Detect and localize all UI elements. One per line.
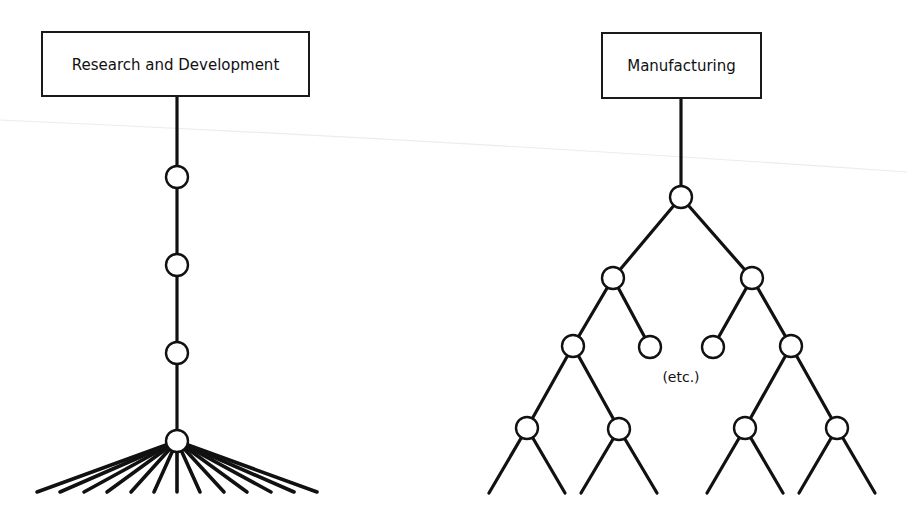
tree-node (702, 336, 724, 358)
tree-edge (791, 346, 837, 428)
tree-node (602, 267, 624, 289)
tree-edge (527, 346, 573, 428)
manufacturing-box-label: Manufacturing (627, 57, 736, 75)
tree-node (562, 335, 584, 357)
scan-streak (0, 120, 907, 172)
tree-node (780, 335, 802, 357)
chain-node (166, 342, 188, 364)
etc-annotation: (etc.) (662, 369, 699, 385)
tree-node (639, 336, 661, 358)
tree-edge (745, 346, 791, 428)
manufacturing-box: Manufacturing (602, 33, 761, 98)
manufacturing-structure: Manufacturing (etc.) (489, 33, 875, 493)
organization-structure-diagram: Research and Development Manufacturing (… (0, 0, 907, 520)
research-and-development-box: Research and Development (42, 32, 309, 96)
research-development-structure: Research and Development (37, 32, 317, 492)
tree-edge (681, 197, 752, 278)
chain-node (166, 430, 188, 452)
tree-edge (573, 346, 619, 429)
manufacturing-tree-edges (489, 98, 875, 493)
tree-node (516, 417, 538, 439)
chain-node (166, 166, 188, 188)
tree-node (826, 417, 848, 439)
manufacturing-tree-nodes (516, 186, 848, 440)
tree-node (734, 417, 756, 439)
research-box-label: Research and Development (72, 56, 280, 74)
tree-node (670, 186, 692, 208)
chain-node (166, 254, 188, 276)
tree-node (741, 267, 763, 289)
fan-line (84, 441, 177, 492)
tree-node (608, 418, 630, 440)
tree-edge (613, 197, 681, 278)
